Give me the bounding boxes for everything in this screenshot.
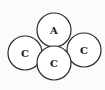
diagram-canvas: A C C C: [0, 0, 105, 90]
label-top: A: [49, 25, 58, 36]
label-right: C: [80, 45, 88, 56]
label-bottom: C: [50, 58, 58, 69]
circle-diagram: A C C C: [0, 0, 105, 90]
label-left: C: [21, 48, 29, 59]
